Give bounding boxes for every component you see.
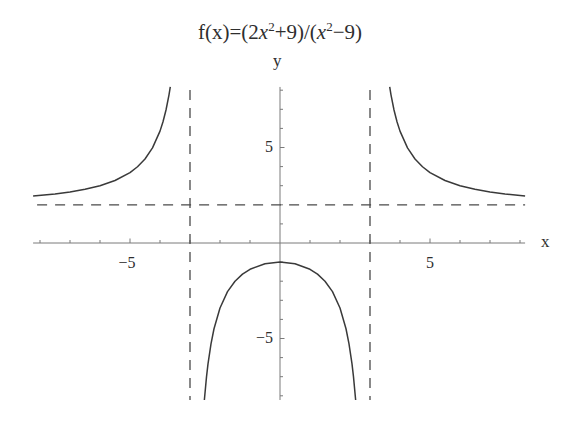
curve-branch: [33, 87, 170, 196]
y-tick-label: 5: [265, 138, 273, 156]
title-segment: x: [259, 20, 268, 44]
x-tick-label: 5: [426, 254, 434, 272]
y-tick-label: −5: [256, 329, 273, 347]
title-segment: −9): [333, 20, 362, 44]
y-axis-label: y: [273, 52, 282, 70]
title-segment: +9)/(: [275, 20, 317, 44]
chart-title: f(x)=(2x2+9)/(x2−9): [0, 20, 560, 44]
plot-area: [0, 0, 578, 425]
axes: [33, 87, 525, 400]
curve-branch: [390, 87, 525, 196]
title-segment: f(x)=(2: [198, 20, 259, 44]
x-tick-label: −5: [118, 254, 135, 272]
title-segment: x: [317, 20, 326, 44]
x-axis-label: x: [541, 233, 550, 251]
asymptotes: [37, 90, 525, 400]
